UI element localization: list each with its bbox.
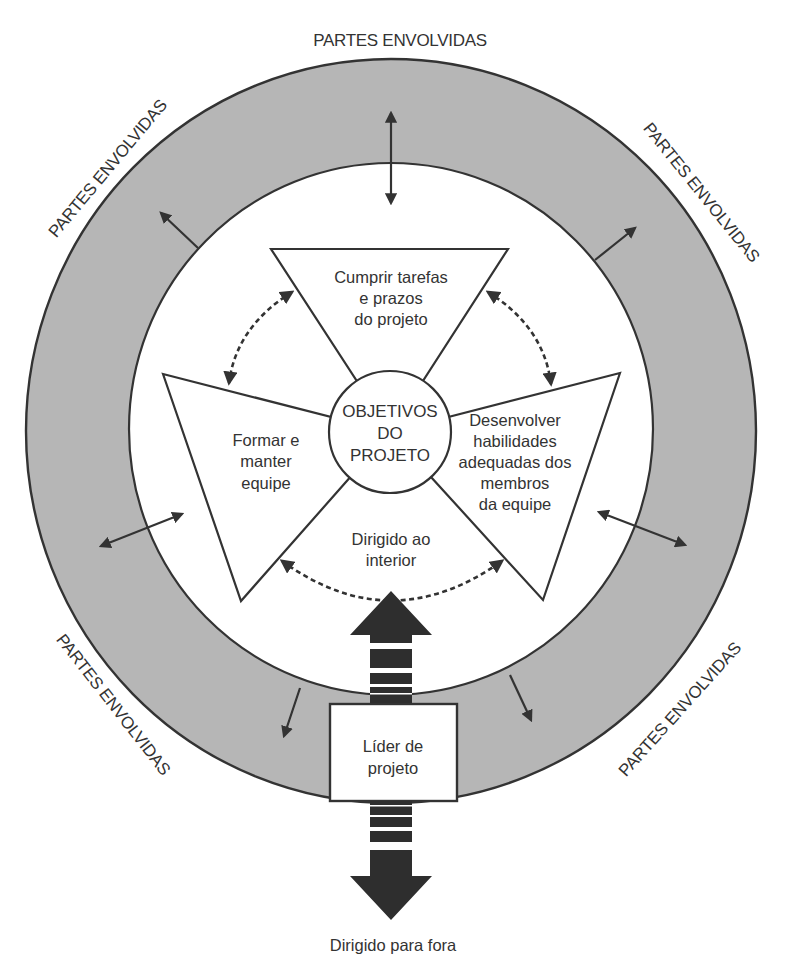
node-top-line-2: e prazos [359, 289, 422, 307]
leader-line-2: projeto [368, 759, 418, 777]
node-right-line-1: Desenvolver [469, 411, 561, 429]
leader-line-1: Líder de [363, 737, 424, 755]
center-line-3: PROJETO [350, 446, 430, 465]
center-line-2: DO [377, 424, 403, 443]
ring-label-top: PARTES ENVOLVIDAS [313, 31, 486, 50]
center-line-1: OBJETIVOS [342, 402, 437, 421]
node-left-line-3: equipe [241, 474, 291, 492]
node-right-line-4: membros [481, 474, 550, 492]
node-right-line-3: adequadas dos [459, 453, 572, 471]
node-left-line-1: Formar e [233, 431, 300, 449]
node-top-line-3: do projeto [354, 310, 427, 328]
node-top-line-1: Cumprir tarefas [334, 268, 448, 286]
node-right-line-2: habilidades [473, 432, 556, 450]
node-right-line-5: da equipe [479, 495, 552, 513]
outward-label: Dirigido para fora [330, 936, 457, 954]
project-leader-diagram: PARTES ENVOLVIDAS PARTES ENVOLVIDAS PART… [0, 0, 792, 969]
outward-big-arrow [350, 801, 432, 920]
node-left-line-2: manter [240, 452, 292, 470]
inward-label-line-2: interior [366, 551, 417, 569]
inward-label-line-1: Dirigido ao [352, 530, 431, 548]
